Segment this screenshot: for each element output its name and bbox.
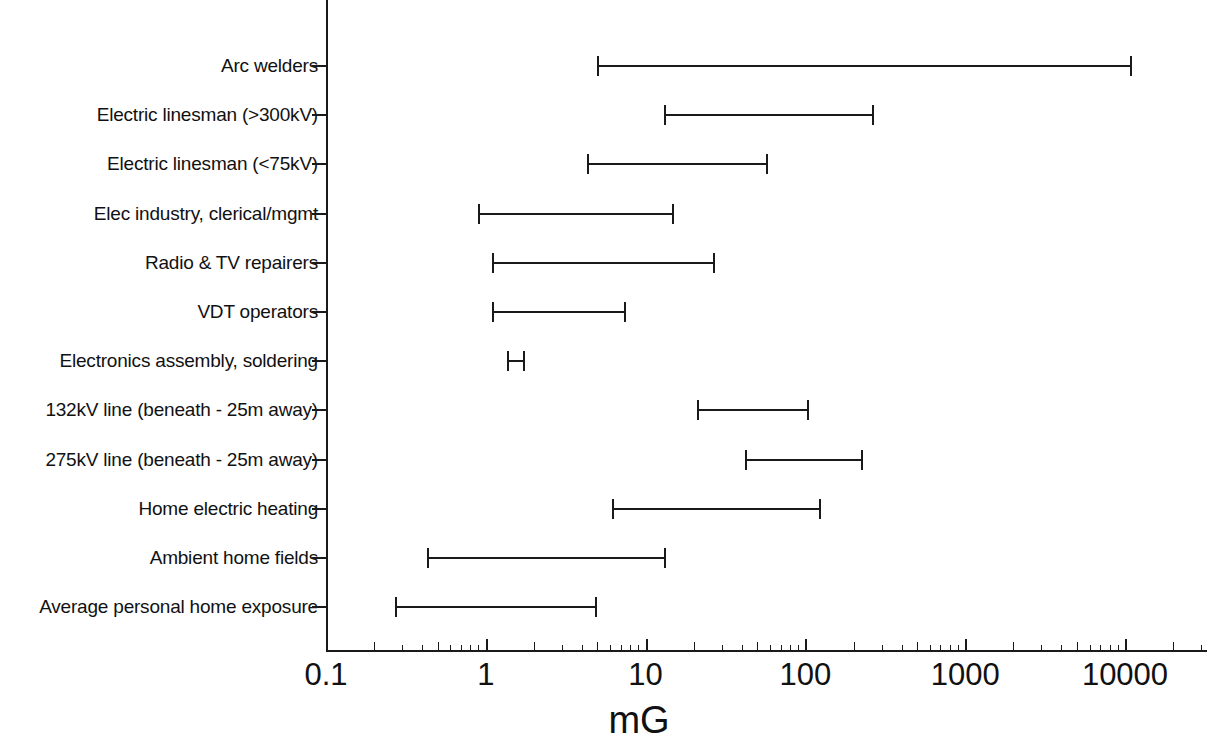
range-bar [395, 606, 598, 608]
y-axis-tick [312, 213, 326, 215]
x-axis-tick-label: 10 [628, 658, 662, 692]
x-axis-tick [1061, 645, 1062, 650]
x-axis-tick [461, 645, 462, 650]
x-axis-tick [757, 642, 758, 650]
range-line [492, 311, 625, 313]
x-axis-tick-label: 10000 [1082, 658, 1168, 692]
x-axis-tick [798, 645, 799, 650]
y-axis-tick [312, 262, 326, 264]
y-axis-tick [312, 360, 326, 362]
range-cap-high [766, 154, 768, 174]
x-axis-tick [1118, 645, 1119, 650]
x-axis-tick [770, 645, 771, 650]
x-axis-tick-label: 0.1 [304, 658, 347, 692]
x-axis-tick [450, 645, 451, 650]
range-cap-high [819, 499, 821, 519]
x-axis-tick [1100, 645, 1101, 650]
range-cap-high [807, 400, 809, 420]
range-cap-high [595, 597, 597, 617]
range-line [395, 606, 598, 608]
range-bar [492, 311, 625, 313]
range-cap-low [597, 56, 599, 76]
x-axis-tick [478, 645, 479, 650]
x-axis-tick [1013, 642, 1014, 650]
range-cap-low [395, 597, 397, 617]
category-label: Electric linesman (>300kV) [97, 105, 318, 124]
x-axis-tick [534, 642, 535, 650]
plot-area [326, 0, 1208, 660]
x-axis-tick [621, 645, 622, 650]
range-cap-high [861, 450, 863, 470]
range-bar [745, 459, 863, 461]
x-axis-tick [694, 642, 695, 650]
range-cap-high [1130, 56, 1132, 76]
x-axis-tick [562, 645, 563, 650]
range-cap-high [523, 351, 525, 371]
y-axis-tick [312, 606, 326, 608]
x-axis-tick [1110, 645, 1111, 650]
x-axis-tick [1173, 642, 1174, 650]
x-axis-tick [597, 642, 598, 650]
category-axis-labels: Arc weldersElectric linesman (>300kV)Ele… [0, 0, 318, 660]
x-axis-title: mG [0, 700, 1208, 740]
range-bar [492, 262, 714, 264]
x-axis-tick [1077, 642, 1078, 650]
range-line [664, 114, 875, 116]
x-axis-tick [646, 639, 648, 650]
range-cap-low [697, 400, 699, 420]
x-axis-tick-label: 100 [780, 658, 832, 692]
x-axis-tick-label: 1 [477, 658, 494, 692]
x-axis-tick [742, 645, 743, 650]
category-label: Radio & TV repairers [145, 253, 318, 272]
range-line [612, 508, 820, 510]
range-bar [697, 409, 809, 411]
x-axis-tick [882, 645, 883, 650]
range-line [478, 213, 673, 215]
range-cap-low [587, 154, 589, 174]
x-axis-tick [422, 645, 423, 650]
range-bar [507, 360, 525, 362]
x-axis-tick [402, 645, 403, 650]
range-bar [427, 557, 666, 559]
range-cap-high [624, 302, 626, 322]
x-axis-tick-label: 1000 [931, 658, 1000, 692]
x-axis-tick [438, 642, 439, 650]
x-axis-tick [965, 639, 967, 650]
range-bar [587, 163, 768, 165]
y-axis-tick [312, 114, 326, 116]
category-label: Electronics assembly, soldering [59, 351, 318, 370]
x-axis-tick [902, 645, 903, 650]
range-bar [664, 114, 875, 116]
category-label: VDT operators [197, 302, 318, 321]
category-label: Electric linesman (<75kV) [107, 154, 318, 173]
range-bar [612, 508, 820, 510]
category-label: Ambient home fields [150, 548, 318, 567]
range-cap-low [492, 302, 494, 322]
category-label: Elec industry, clerical/mgmt [94, 204, 318, 223]
x-axis-tick [940, 645, 941, 650]
x-axis-tick [610, 645, 611, 650]
range-cap-high [664, 548, 666, 568]
range-cap-low [745, 450, 747, 470]
range-line [587, 163, 768, 165]
range-line [697, 409, 809, 411]
y-axis-tick [312, 65, 326, 67]
y-axis-tick [312, 409, 326, 411]
x-axis-tick [930, 645, 931, 650]
range-cap-low [492, 253, 494, 273]
x-axis-tick [630, 645, 631, 650]
range-bar [478, 213, 673, 215]
range-line [745, 459, 863, 461]
x-axis-tick [805, 639, 807, 650]
x-axis-tick [486, 639, 488, 650]
x-axis-tick [638, 645, 639, 650]
x-axis-tick [854, 642, 855, 650]
category-label: Arc welders [221, 56, 318, 75]
y-axis-tick [312, 311, 326, 313]
x-axis-tick [722, 645, 723, 650]
range-cap-low [427, 548, 429, 568]
x-axis-tick [1201, 645, 1202, 650]
range-bar [597, 65, 1131, 67]
range-cap-low [612, 499, 614, 519]
range-cap-low [507, 351, 509, 371]
